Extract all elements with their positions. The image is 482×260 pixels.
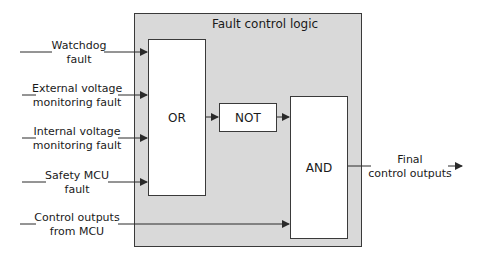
input-label-line1: Internal voltage xyxy=(32,125,122,139)
input-label-line2: monitoring fault xyxy=(32,139,122,153)
input-label-line2: monitoring fault xyxy=(32,96,122,110)
input-label-watchdog: Watchdog fault xyxy=(44,39,114,67)
input-label-line1: External voltage xyxy=(32,82,122,96)
input-label-line1: Watchdog xyxy=(44,39,114,53)
output-label-line2: control outputs xyxy=(368,167,452,181)
input-label-line2: fault xyxy=(40,183,114,197)
output-label-line1: Final xyxy=(368,153,452,167)
input-label-line2: from MCU xyxy=(32,225,122,239)
output-label-final-control: Final control outputs xyxy=(368,153,452,181)
input-label-external-voltage: External voltage monitoring fault xyxy=(32,82,122,110)
input-label-control-outputs: Control outputs from MCU xyxy=(32,211,122,239)
input-label-line1: Safety MCU xyxy=(40,169,114,183)
input-label-internal-voltage: Internal voltage monitoring fault xyxy=(32,125,122,153)
input-label-line1: Control outputs xyxy=(32,211,122,225)
input-label-line2: fault xyxy=(44,53,114,67)
input-label-safety-mcu: Safety MCU fault xyxy=(40,169,114,197)
